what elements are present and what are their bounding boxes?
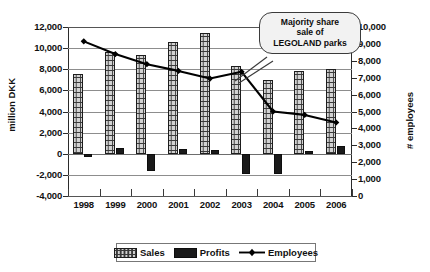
callout-pointer-icon [215,55,275,85]
y-axis-right-tick [352,196,357,197]
x-axis-tick [320,189,321,196]
sales-bar [136,55,146,154]
y-axis-left-tick [63,69,68,70]
hatched-square-icon [114,248,137,258]
y-axis-right-tick-label: 2,000 [358,156,406,167]
y-axis-right-tick [352,61,357,62]
legoland-sale-callout: Majority share sale of LEGOLAND parks [259,12,361,54]
y-axis-right-tick-label: 9,000 [358,38,406,49]
y-axis-right-tick-label: 10,000 [358,21,406,32]
x-axis-tick-label: 2006 [320,199,352,210]
y-axis-left-tick-label: 10,000 [18,42,62,53]
profit-bar [179,149,187,154]
legend-label-sales: Sales [140,247,165,258]
y-axis-right-tick [352,112,357,113]
profit-bar [147,154,155,171]
y-axis-left-tick-label: 6,000 [18,84,62,95]
x-axis-tick-label: 2003 [226,199,258,210]
legend-item-employees: Employees [239,247,318,258]
callout-line-2: sale of [263,27,357,37]
gridline [68,175,352,176]
x-axis-tick-label: 2001 [162,199,194,210]
x-axis-tick-label: 1999 [99,199,131,210]
sales-bar [200,33,210,154]
y-axis-left-tick [63,196,68,197]
y-axis-right-tick-label: 4,000 [358,122,406,133]
legend-label-employees: Employees [268,247,318,258]
y-axis-left-tick-label: -2,000 [18,169,62,180]
y-axis-right-title: # employees [404,92,415,149]
legend-label-profits: Profits [200,247,230,258]
filled-square-icon [174,248,197,258]
x-axis-tick [352,189,353,196]
x-axis-tick [163,189,164,196]
profit-bar [116,148,124,153]
x-axis-tick [289,189,290,196]
sales-bar [73,74,83,154]
profit-bar [305,151,313,154]
profit-bar [242,154,250,174]
sales-bar [326,69,336,154]
y-axis-left-tick-label: 0 [18,148,62,159]
x-axis-tick [68,189,69,196]
chart-container: 12,00010,0008,0006,0004,0002,0000-2,000-… [0,0,430,272]
y-axis-right-tick [352,95,357,96]
y-axis-right-tick-label: 6,000 [358,89,406,100]
profit-bar [274,154,282,174]
y-axis-left-tick [63,90,68,91]
y-axis-left-tick [63,133,68,134]
y-axis-right-tick [352,78,357,79]
x-axis-tick-label: 2000 [131,199,163,210]
y-axis-left-tick-label: 8,000 [18,63,62,74]
callout-line-3: LEGOLAND parks [263,38,357,48]
sales-bar [263,80,273,153]
gridline [68,196,352,197]
y-axis-right-tick [352,162,357,163]
y-axis-right-tick-label: 1,000 [358,173,406,184]
y-axis-right-tick [352,179,357,180]
y-axis-left-tick [63,154,68,155]
sales-bar [105,52,115,154]
legend-item-sales: Sales [114,247,165,258]
sales-bar [294,71,304,153]
y-axis-left-tick [63,175,68,176]
y-axis-right-tick-label: 7,000 [358,72,406,83]
profit-bar [84,154,92,157]
y-axis-right-tick [352,128,357,129]
y-axis-left-title: million DKK [6,78,17,132]
x-axis-tick [226,189,227,196]
line-diamond-icon [239,248,265,257]
profit-bar [337,146,345,153]
chart-legend: Sales Profits Employees [116,243,316,262]
sales-bar [168,42,178,153]
y-axis-left-tick [63,27,68,28]
y-axis-right-tick-label: 5,000 [358,106,406,117]
y-axis-left-tick-label: 4,000 [18,106,62,117]
x-axis-tick [131,189,132,196]
y-axis-left-tick-label: 2,000 [18,127,62,138]
profit-bar [211,150,219,154]
y-axis-right-tick-label: 3,000 [358,139,406,150]
y-axis-left-tick [63,112,68,113]
x-axis-tick-label: 1998 [68,199,100,210]
y-axis-left-tick [63,48,68,49]
y-axis-right-tick [352,145,357,146]
y-axis-right-tick-label: 8,000 [358,55,406,66]
y-axis-left-tick-label: 12,000 [18,21,62,32]
x-axis-tick [257,189,258,196]
x-axis-tick [194,189,195,196]
callout-line-1: Majority share [263,17,357,27]
gridline [68,154,352,155]
x-axis-tick-label: 2005 [289,199,321,210]
x-axis-tick-label: 2002 [194,199,226,210]
y-axis-right-tick-label: 0 [358,190,406,201]
y-axis-left-tick-label: -4,000 [18,190,62,201]
x-axis-tick [100,189,101,196]
legend-item-profits: Profits [174,247,230,258]
x-axis-tick-label: 2004 [257,199,289,210]
